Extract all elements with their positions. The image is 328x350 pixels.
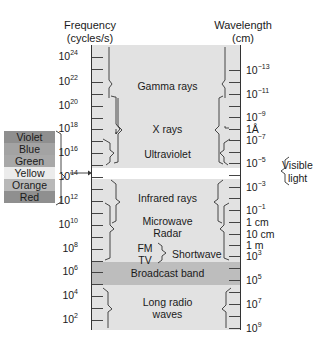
arrow-head-icon — [88, 171, 92, 176]
gamma-bracket-left — [109, 47, 112, 98]
bracket-lines — [0, 0, 328, 350]
